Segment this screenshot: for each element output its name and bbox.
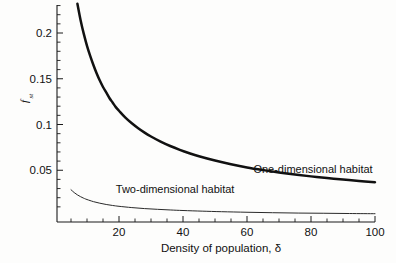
y-axis-title: f st — [18, 93, 35, 103]
y-axis-ticks — [57, 6, 63, 207]
chart-figure: 0.050.10.150.2 20406080100 One-dimension… — [0, 0, 396, 263]
x-tick-label: 100 — [365, 226, 384, 238]
y-tick-label: 0.2 — [36, 27, 52, 39]
y-tick-label: 0.15 — [30, 73, 52, 85]
x-tick-label: 20 — [113, 226, 126, 238]
y-axis-title-subscript: st — [27, 93, 35, 99]
x-axis-tick-labels: 20406080100 — [113, 226, 385, 238]
annotation-two-dimensional-habitat: Two-dimensional habitat — [116, 183, 235, 195]
y-tick-label: 0.05 — [30, 164, 52, 176]
annotation-one-dimensional-habitat: One-dimensional habitat — [253, 163, 372, 175]
x-tick-label: 80 — [305, 226, 318, 238]
x-axis-title: Density of population, δ — [161, 242, 281, 254]
x-tick-label: 40 — [177, 226, 190, 238]
chart-canvas: 0.050.10.150.2 20406080100 One-dimension… — [0, 0, 396, 263]
x-axis-ticks — [71, 216, 375, 222]
y-axis-tick-labels: 0.050.10.150.2 — [30, 27, 52, 176]
x-tick-label: 60 — [241, 226, 254, 238]
series-line-one-dimensional — [77, 4, 375, 182]
y-tick-label: 0.1 — [36, 119, 52, 131]
